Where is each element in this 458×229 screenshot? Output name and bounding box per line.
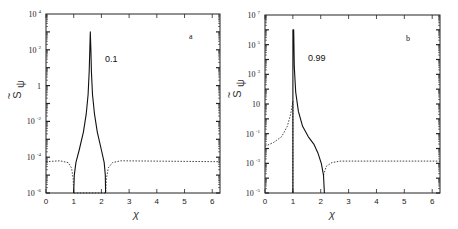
- dotted-curve: [265, 101, 293, 193]
- x-tick-label: 0: [44, 197, 49, 206]
- y-tick-label: 10: [252, 100, 260, 109]
- x-tick-label: 2: [99, 197, 104, 206]
- panel-b: 10 710 510 31010 -110 -310 -5 0123456 0.…: [223, 10, 440, 220]
- parameter-annotation-a: 0.1: [105, 54, 118, 64]
- parameter-annotation-b: 0.99: [308, 53, 326, 63]
- figure-canvas: 10 410 2110 -210 -410 -6 0123456 0.1 a χ…: [0, 0, 458, 229]
- x-tick-label: 4: [374, 197, 379, 206]
- x-tick-label: 3: [127, 197, 132, 206]
- plot-frame-a: [46, 14, 220, 193]
- y-tick-label: 10 -2: [27, 116, 42, 126]
- curves-a: [46, 32, 220, 193]
- x-tick-label: 5: [182, 197, 187, 206]
- x-axis-ticks-b: 0123456: [263, 15, 435, 206]
- x-tick-label: 3: [346, 197, 351, 206]
- y-tick-label: 10 -5: [246, 188, 261, 198]
- x-axis-title-b: χ: [328, 208, 336, 220]
- y-axis-ticks-b: 10 710 510 31010 -110 -310 -5: [246, 10, 440, 198]
- x-tick-label: 1: [291, 197, 296, 206]
- y-tick-label: 10 4: [29, 9, 42, 19]
- y-axis-title-sub-b: ψ: [234, 79, 246, 87]
- y-tick-label: 10 2: [29, 45, 42, 55]
- x-tick-label: 0: [263, 197, 268, 206]
- x-tick-label: 5: [402, 197, 407, 206]
- x-axis-title-a: χ: [132, 208, 140, 220]
- x-tick-label: 1: [71, 197, 76, 206]
- x-tick-label: 6: [430, 197, 435, 206]
- y-axis-title-sub-a: ψ: [14, 80, 26, 88]
- y-tick-label: 10 5: [248, 40, 261, 50]
- y-tick-label: 10 -3: [246, 158, 261, 168]
- x-axis-ticks-a: 0123456: [44, 14, 215, 206]
- y-tick-label: 1: [37, 82, 41, 91]
- panel-a: 10 410 2110 -210 -410 -6 0123456 0.1 a χ…: [3, 9, 220, 220]
- y-axis-title-tilde-b: ~: [223, 92, 235, 98]
- y-tick-label: 10 -6: [27, 188, 42, 198]
- panel-letter-a: a: [189, 32, 193, 41]
- y-tick-label: 10 -4: [27, 152, 42, 162]
- dotted-curve: [46, 161, 220, 193]
- curves-b: [265, 30, 440, 193]
- x-tick-label: 2: [319, 197, 324, 206]
- y-tick-label: 10 7: [248, 10, 261, 20]
- y-axis-title-tilde-a: ~: [3, 93, 15, 99]
- y-tick-label: 10 -1: [246, 129, 261, 139]
- x-tick-label: 6: [210, 197, 215, 206]
- plot-frame-b: [265, 15, 440, 193]
- y-axis-title-a: S ~ ψ: [3, 80, 26, 99]
- y-axis-title-b: S ~ ψ: [223, 79, 246, 98]
- y-tick-label: 10 3: [248, 69, 261, 79]
- solid-curve: [74, 32, 106, 193]
- panel-letter-b: b: [406, 34, 410, 43]
- x-tick-label: 4: [155, 197, 160, 206]
- dotted-curve: [324, 161, 441, 175]
